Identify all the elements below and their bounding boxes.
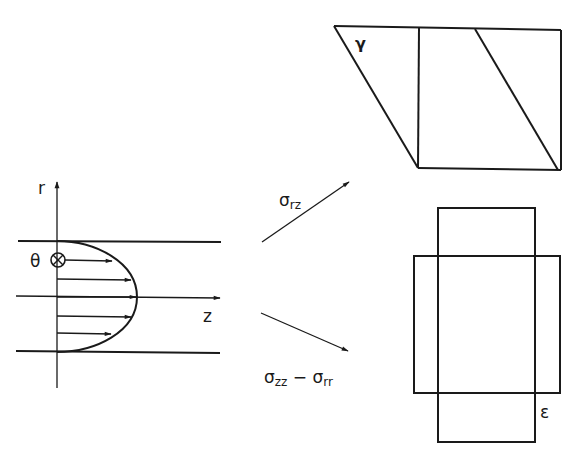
z-axis-label: z bbox=[203, 306, 212, 326]
shear-stress-label: σrz bbox=[279, 190, 301, 212]
sheared-left-edge bbox=[334, 26, 418, 168]
theta-into-page-icon bbox=[51, 253, 65, 267]
shear-bottom-edge bbox=[418, 168, 561, 170]
sheared-right-edge bbox=[475, 29, 558, 170]
extension-deformation-panel: ε bbox=[414, 208, 560, 442]
velocity-arrow bbox=[57, 316, 131, 317]
shear-top-edge bbox=[334, 26, 561, 30]
stress-arrows: σrz σzz − σrr bbox=[261, 182, 349, 389]
extension-strain-label: ε bbox=[540, 402, 549, 422]
tube-wall-top bbox=[18, 241, 221, 242]
shear-deformation-panel: γ bbox=[334, 26, 561, 170]
shear-strain-label: γ bbox=[355, 34, 366, 53]
flow-panel: r z θ bbox=[16, 178, 221, 388]
stretched-rectangle bbox=[414, 256, 560, 393]
velocity-arrow bbox=[57, 333, 111, 334]
r-axis-label: r bbox=[38, 178, 45, 198]
original-square bbox=[438, 208, 535, 442]
theta-label: θ bbox=[30, 251, 40, 271]
tube-wall-bottom bbox=[16, 351, 220, 353]
normal-stress-difference-label: σzz − σrr bbox=[264, 367, 333, 389]
normal-stress-arrow bbox=[261, 313, 348, 351]
velocity-arrow bbox=[65, 260, 112, 261]
velocity-arrow bbox=[57, 279, 131, 280]
shear-stress-arrow bbox=[262, 182, 349, 242]
diagram-canvas: r z θ σrz σzz − σrr bbox=[0, 0, 583, 453]
original-left-edge bbox=[418, 28, 419, 168]
